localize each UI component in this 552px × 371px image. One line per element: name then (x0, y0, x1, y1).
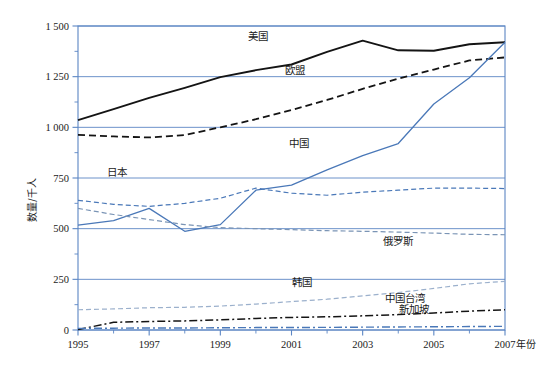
series-label-7: 新加坡 (399, 303, 430, 315)
y-axis-title: 数量/千人 (26, 178, 38, 221)
x-tick-label: 2001 (281, 339, 302, 350)
x-tick-label: 1995 (68, 339, 89, 350)
x-tick-label: 2005 (423, 339, 444, 350)
x-tick-label: 2003 (352, 339, 373, 350)
series-label-4: 俄罗斯 (383, 235, 414, 247)
y-tick-label: 1 000 (45, 122, 69, 133)
chart-container: 02505007501 0001 2501 500 19951997199920… (0, 0, 552, 371)
x-tick-label: 2007 (495, 339, 516, 350)
series-label-5: 韩国 (292, 276, 312, 288)
series-label-0: 美国 (248, 30, 268, 42)
x-tick-label: 1997 (139, 339, 160, 350)
series-label-6: 中国台湾 (385, 292, 426, 304)
chart-background (0, 0, 552, 371)
x-tick-label: 1999 (210, 339, 231, 350)
y-tick-label: 250 (53, 274, 69, 285)
y-tick-label: 1 250 (45, 71, 69, 82)
series-label-2: 中国 (289, 137, 309, 149)
y-tick-label: 750 (53, 173, 69, 184)
y-tick-label: 0 (64, 325, 69, 336)
series-label-1: 欧盟 (285, 64, 306, 76)
y-tick-label: 1 500 (45, 21, 69, 32)
y-tick-label: 500 (53, 223, 69, 234)
x-axis-title: 年份 (516, 338, 536, 350)
series-label-3: 日本 (107, 166, 128, 178)
line-chart: 02505007501 0001 2501 500 19951997199920… (0, 0, 552, 371)
